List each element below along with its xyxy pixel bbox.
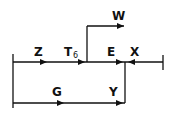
- label-G: G: [52, 85, 62, 99]
- arrow-Y-icon: [116, 100, 123, 106]
- flow-diagram: Z T 6 E X W G Y: [0, 0, 171, 114]
- arrow-W-icon: [117, 23, 124, 29]
- arrow-Z-icon: [40, 59, 47, 65]
- label-X: X: [130, 45, 140, 59]
- arrow-T6-icon: [78, 59, 85, 65]
- arrow-G-icon: [57, 100, 64, 106]
- label-W: W: [112, 9, 125, 23]
- label-Z: Z: [34, 45, 43, 59]
- label-E: E: [107, 45, 115, 59]
- arrow-X-icon: [128, 59, 135, 65]
- label-Y: Y: [108, 85, 118, 99]
- label-T-subscript: 6: [73, 51, 78, 60]
- arrow-E-icon: [116, 59, 123, 65]
- label-T: T: [64, 45, 73, 59]
